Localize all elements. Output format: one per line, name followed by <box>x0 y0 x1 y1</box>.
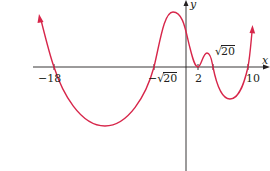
tick-label-10: 10 <box>246 73 260 84</box>
radicand: 20 <box>163 72 177 84</box>
y-axis-arrow-icon <box>184 0 189 6</box>
left-end-arrow-icon <box>38 14 44 23</box>
y-axis-label: y <box>190 0 196 10</box>
radicand: 20 <box>221 45 235 57</box>
polynomial-curve <box>41 12 252 126</box>
tick-label-sqrt20: √20 <box>215 45 235 57</box>
tick-label-2: 2 <box>195 73 202 84</box>
minus-sign: − <box>148 72 157 85</box>
x-axis-label: x <box>262 55 268 66</box>
polynomial-graph <box>0 0 270 171</box>
tick-label-neg18: −18 <box>38 73 61 84</box>
tick-label-neg-sqrt20: −√20 <box>148 72 177 84</box>
right-end-arrow-icon <box>250 25 256 34</box>
